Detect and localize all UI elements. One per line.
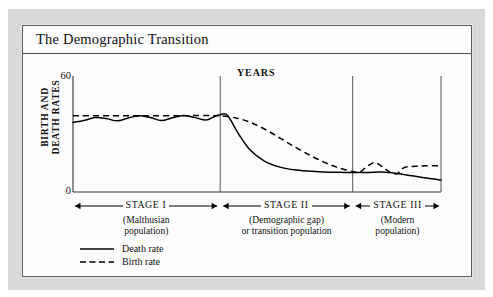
stage-caption-1: (Malthusian population) <box>123 215 169 236</box>
stage-caption-3-line2: population) <box>375 226 419 237</box>
legend-label-birth-rate: Birth rate <box>122 256 160 267</box>
stage-caption-2-line1: (Demographic gap) <box>241 215 331 226</box>
page-title: The Demographic Transition <box>36 31 209 48</box>
stage-caption-1-line2: population) <box>123 226 169 237</box>
stage-label-2: STAGE II <box>261 199 312 210</box>
legend-swatch-dashed <box>79 257 115 267</box>
chart-legend: Death rate Birth rate <box>79 242 163 268</box>
stage-caption-2-line2: or transition population <box>241 226 331 237</box>
figure-frame: The Demographic Transition 60 0 YEARS BI… <box>22 25 472 277</box>
birth-rate-curve <box>73 116 441 174</box>
legend-label-death-rate: Death rate <box>122 243 163 254</box>
figure-page: The Demographic Transition 60 0 YEARS BI… <box>0 0 493 297</box>
stage-label-3: STAGE III <box>370 199 424 210</box>
chart-plot-area: 60 0 YEARS BIRTH AND DEATH RATES <box>23 54 473 278</box>
stage-caption-3: (Modern population) <box>375 215 419 236</box>
legend-item-death-rate: Death rate <box>79 242 163 255</box>
stage-caption-1-line1: (Malthusian <box>123 215 169 226</box>
legend-item-birth-rate: Birth rate <box>79 255 163 268</box>
title-bar: The Demographic Transition <box>23 26 471 54</box>
stage-caption-3-line1: (Modern <box>375 215 419 226</box>
stage-caption-2: (Demographic gap) or transition populati… <box>241 215 331 236</box>
stage-label-1: STAGE I <box>123 199 170 210</box>
legend-swatch-solid <box>79 244 115 254</box>
